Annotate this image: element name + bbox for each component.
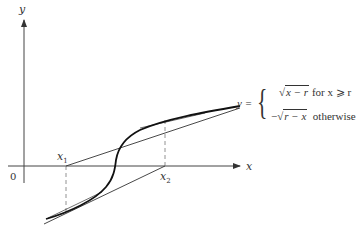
equation-case-2: −√r − x otherwise	[271, 110, 356, 122]
x1-label: x1	[57, 150, 68, 165]
lower-tangent-line	[48, 192, 102, 218]
equation-case-1: √x − r for x ⩾ r	[279, 86, 351, 99]
x-axis-label: x	[246, 160, 253, 173]
x2-label: x2	[160, 170, 171, 185]
upper-secant-line	[66, 108, 240, 166]
y-axis-label: y	[18, 3, 26, 16]
equation-lhs: y =	[237, 97, 252, 109]
equation-brace: {	[257, 84, 267, 120]
origin-label: 0	[10, 171, 16, 182]
lower-secant-line	[44, 166, 165, 224]
